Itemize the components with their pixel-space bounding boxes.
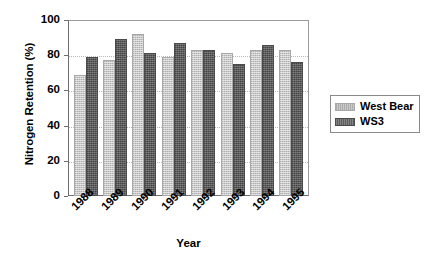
plot-area bbox=[68, 20, 309, 196]
y-axis-tick-label: 0 bbox=[30, 190, 60, 202]
chart-legend: West BearWS3 bbox=[330, 95, 420, 133]
y-axis-tick-label: 60 bbox=[30, 84, 60, 96]
x-axis-title: Year bbox=[68, 237, 309, 249]
y-axis-tick-label: 40 bbox=[30, 120, 60, 132]
gridline bbox=[69, 56, 308, 57]
gridline bbox=[69, 127, 308, 128]
legend-item: WS3 bbox=[335, 115, 414, 128]
dark-gray-swatch bbox=[335, 118, 355, 126]
legend-item: West Bear bbox=[335, 100, 414, 113]
light-gray-swatch bbox=[335, 103, 355, 111]
gridline bbox=[69, 91, 308, 92]
y-axis-tick-label: 100 bbox=[30, 14, 60, 26]
legend-item-label: West Bear bbox=[360, 101, 414, 112]
y-axis-tick-label: 80 bbox=[30, 49, 60, 61]
chart-figure: Nitrogen Retention (%) 100806040200 1988… bbox=[0, 0, 426, 261]
gridline bbox=[69, 162, 308, 163]
x-axis-tick-labels: 19881989199019911992199319941995 bbox=[68, 198, 309, 238]
legend-item-label: WS3 bbox=[360, 116, 384, 127]
y-axis-title: Nitrogen Retention (%) bbox=[23, 14, 35, 194]
y-axis-tick-label: 20 bbox=[30, 155, 60, 167]
